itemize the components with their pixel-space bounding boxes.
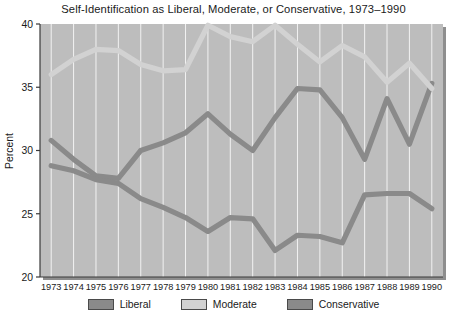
- x-tick-label: 1981: [220, 282, 240, 292]
- chart-container: Self-Identification as Liberal, Moderate…: [0, 0, 467, 326]
- x-tick-label: 1980: [198, 282, 218, 292]
- y-axis-title-text: Percent: [4, 133, 15, 169]
- chart-legend: Liberal Moderate Conservative: [0, 299, 467, 310]
- y-tick-label: 30: [21, 145, 33, 156]
- x-tick-label: 1975: [86, 282, 106, 292]
- y-axis-ticks: 2025303540: [21, 19, 40, 283]
- x-tick-label: 1989: [399, 282, 419, 292]
- x-tick-label: 1990: [422, 282, 442, 292]
- legend-item-moderate[interactable]: Moderate: [181, 299, 257, 310]
- legend-swatch-conservative: [287, 299, 313, 310]
- legend-item-liberal[interactable]: Liberal: [88, 299, 151, 310]
- legend-item-conservative[interactable]: Conservative: [287, 299, 380, 310]
- y-axis-title: Percent: [4, 133, 15, 169]
- x-axis-ticks: 1973197419751976197719781979198019811982…: [41, 282, 442, 292]
- x-tick-label: 1985: [310, 282, 330, 292]
- x-tick-label: 1973: [41, 282, 61, 292]
- x-tick-label: 1977: [131, 282, 151, 292]
- x-tick-label: 1988: [377, 282, 397, 292]
- plot-area-background: [40, 24, 443, 277]
- legend-label-liberal: Liberal: [120, 299, 151, 310]
- chart-plot-svg: 2025303540 19731974197519761977197819791…: [0, 0, 467, 326]
- x-tick-label: 1974: [63, 282, 83, 292]
- x-tick-label: 1987: [354, 282, 374, 292]
- x-tick-label: 1979: [175, 282, 195, 292]
- y-tick-label: 40: [21, 19, 33, 30]
- legend-swatch-liberal: [88, 299, 114, 310]
- legend-label-moderate: Moderate: [213, 299, 257, 310]
- x-tick-label: 1986: [332, 282, 352, 292]
- x-tick-label: 1976: [108, 282, 128, 292]
- y-tick-label: 35: [21, 82, 33, 93]
- y-tick-label: 25: [21, 209, 33, 220]
- x-tick-label: 1978: [153, 282, 173, 292]
- legend-label-conservative: Conservative: [319, 299, 380, 310]
- x-tick-label: 1983: [265, 282, 285, 292]
- x-tick-label: 1982: [242, 282, 262, 292]
- y-tick-label: 20: [21, 272, 33, 283]
- legend-swatch-moderate: [181, 299, 207, 310]
- x-tick-label: 1984: [287, 282, 307, 292]
